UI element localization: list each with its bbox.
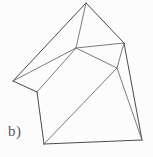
- edge-right-upper-to-bottom-right: [124, 43, 142, 140]
- edge-apex-to-center-upper: [76, 3, 86, 48]
- edge-apex-to-right-upper: [86, 3, 124, 43]
- edge-center-upper-to-right-upper: [76, 43, 124, 48]
- edge-left-inner-to-bottom-left: [37, 92, 44, 144]
- edge-mid-right-to-bottom-right: [117, 68, 142, 140]
- edge-group-outer: [13, 3, 142, 144]
- edge-left-outer-to-center-upper: [13, 48, 76, 81]
- edge-bottom-left-to-bottom-right: [44, 140, 142, 144]
- polyhedron-line-drawing: [0, 0, 153, 157]
- edge-apex-to-left-outer: [13, 3, 86, 81]
- edge-mid-right-to-bottom-left: [44, 68, 117, 144]
- figure-panel: b): [0, 0, 153, 157]
- edge-left-outer-to-left-inner: [13, 81, 37, 92]
- panel-label: b): [8, 124, 22, 139]
- edge-center-upper-to-mid-right: [76, 48, 117, 68]
- edge-right-upper-to-mid-right: [117, 43, 124, 68]
- edge-group-inner: [13, 3, 142, 144]
- edge-left-inner-to-center-upper: [37, 48, 76, 92]
